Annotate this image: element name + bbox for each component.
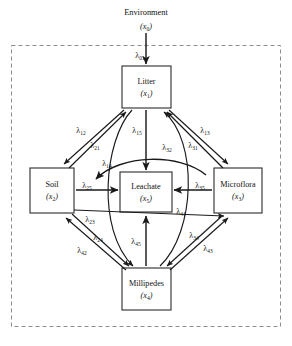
- compartment-flow-diagram: Environment (x0) λ01 Litter (x1) Soil (x…: [0, 0, 292, 346]
- node-millipedes-label: Millipedes: [129, 279, 164, 288]
- diagram-canvas: Environment (x0) λ01 Litter (x1) Soil (x…: [0, 0, 292, 346]
- environment-variable: (x0): [140, 22, 152, 32]
- flow-label-l25: λ25: [82, 181, 92, 191]
- flow-label-l45: λ45: [131, 237, 141, 247]
- node-millipedes: [122, 268, 171, 310]
- node-litter: [122, 66, 171, 108]
- flow-arrow-l31: [167, 112, 223, 168]
- flow-label-l24: λ24: [93, 233, 103, 243]
- flow-label-l42: λ42: [77, 246, 87, 256]
- flow-arrow-l12: [64, 110, 124, 164]
- flow-arrow-l21: [69, 112, 126, 168]
- node-microflora-label: Microflora: [220, 180, 256, 189]
- flow-arrow-l34: [167, 216, 222, 266]
- node-microflora-variable: (x3): [232, 192, 244, 202]
- flow-arrow-l13: [169, 110, 228, 164]
- node-leachate-variable: (x5): [140, 194, 152, 204]
- flow-label-l15: λ15: [132, 126, 142, 136]
- flow-label-l32: λ32: [162, 143, 172, 153]
- node-leachate-label: Leachate: [131, 182, 161, 191]
- flow-arrow-l43: [170, 218, 228, 270]
- flow-label-l41: λ41: [176, 207, 186, 217]
- node-soil-label: Soil: [45, 180, 59, 189]
- environment-label: Environment: [124, 8, 168, 17]
- node-millipedes-variable: (x4): [141, 291, 153, 301]
- node-soil: [30, 168, 74, 213]
- node-microflora: [214, 168, 262, 213]
- flow-label-l34: λ34: [189, 231, 199, 241]
- node-soil-variable: (x2): [46, 192, 58, 202]
- flow-label-l01: λ01: [135, 51, 145, 61]
- node-litter-label: Litter: [137, 77, 155, 86]
- node-leachate: [120, 172, 172, 212]
- flow-label-l12: λ12: [76, 126, 86, 136]
- flow-arrow-l42: [66, 218, 126, 270]
- node-litter-variable: (x1): [141, 89, 153, 99]
- flow-label-l13: λ13: [200, 126, 210, 136]
- flow-label-l35: λ35: [195, 181, 205, 191]
- flow-label-l23: λ23: [85, 215, 95, 225]
- flow-label-l31: λ31: [188, 141, 198, 151]
- flow-label-l43: λ43: [203, 244, 213, 254]
